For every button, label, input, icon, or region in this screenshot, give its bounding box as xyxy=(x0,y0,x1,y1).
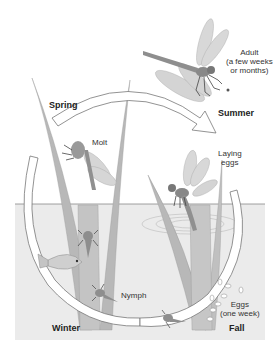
season-fall: Fall xyxy=(229,323,245,333)
laying-line-2: eggs xyxy=(218,158,242,167)
eggs-label: Eggs (one week) xyxy=(220,300,260,318)
eggs-title: Eggs xyxy=(220,300,260,309)
adult-dragonfly-illustration xyxy=(143,17,233,107)
laying-line-1: Laying xyxy=(218,149,242,158)
season-winter: Winter xyxy=(52,323,80,333)
small-insect xyxy=(227,89,230,92)
season-summer: Summer xyxy=(218,108,254,118)
adult-duration-2: or months) xyxy=(226,66,273,75)
season-spring: Spring xyxy=(49,100,78,110)
molt-label: Molt xyxy=(92,138,107,147)
laying-eggs-label: Laying eggs xyxy=(218,149,242,167)
eggs-duration: (one week) xyxy=(220,309,260,318)
adult-title: Adult xyxy=(226,48,273,57)
adult-label: Adult (a few weeks or months) xyxy=(226,48,273,75)
dragonfly-life-cycle-diagram: Adult (a few weeks or months) Spring Sum… xyxy=(0,0,278,354)
adult-duration-1: (a few weeks xyxy=(226,57,273,66)
nymph-label: Nymph xyxy=(121,291,146,300)
molting-dragonfly-illustration xyxy=(62,141,119,190)
